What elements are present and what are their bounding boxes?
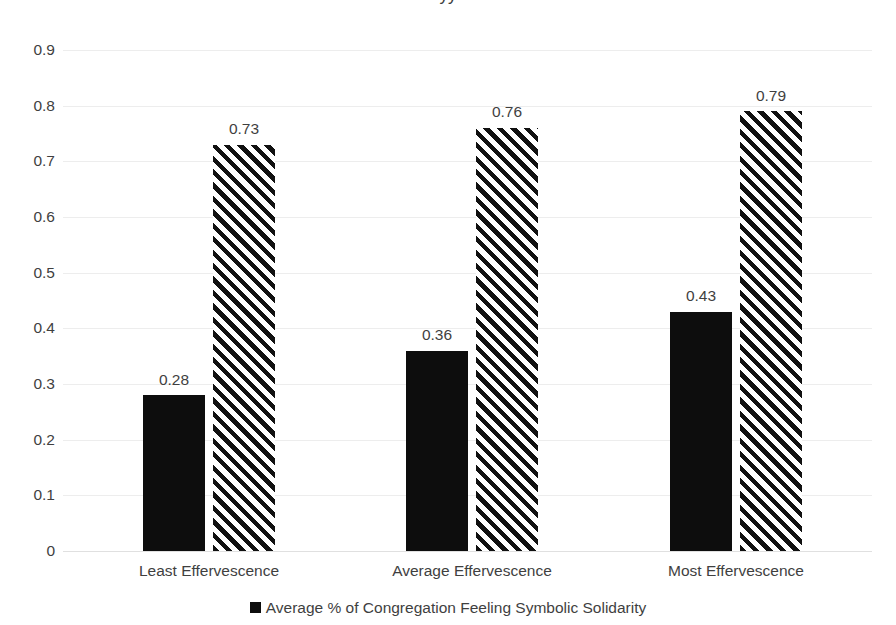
y-axis-tick-label: 0	[9, 543, 55, 559]
y-axis: 0.90.80.70.60.50.40.30.20.10	[0, 50, 55, 551]
bar[interactable]	[213, 145, 275, 551]
bar-value-label: 0.36	[392, 327, 482, 343]
bar-value-label: 0.73	[199, 121, 289, 137]
y-axis-tick-label: 0.1	[9, 488, 55, 504]
bar-value-label: 0.79	[726, 88, 816, 104]
chart-title-cutoff: yy	[0, 0, 896, 5]
bar[interactable]	[406, 351, 468, 551]
legend-item-label: Average % of Congregation Feeling Symbol…	[266, 599, 647, 617]
y-axis-tick-label: 0.7	[9, 154, 55, 170]
bar-group: 0.360.76	[406, 50, 538, 551]
bar-chart: yy 0.90.80.70.60.50.40.30.20.10 0.280.73…	[0, 0, 896, 625]
bar[interactable]	[476, 128, 538, 551]
bar[interactable]	[143, 395, 205, 551]
y-axis-tick-label: 0.9	[9, 42, 55, 58]
bar-group: 0.280.73	[143, 50, 275, 551]
bar-group: 0.430.79	[670, 50, 802, 551]
y-axis-tick-label: 0.2	[9, 432, 55, 448]
legend-item[interactable]: Average % of Congregation Feeling Symbol…	[250, 599, 647, 617]
y-axis-tick-label: 0.8	[9, 98, 55, 114]
bar[interactable]	[740, 111, 802, 551]
gridline	[63, 551, 872, 552]
y-axis-tick-label: 0.3	[9, 376, 55, 392]
plot-area: 0.280.730.360.760.430.79	[63, 50, 872, 551]
y-axis-tick-label: 0.5	[9, 265, 55, 281]
legend-square-icon	[250, 602, 261, 613]
chart-title-text: yy	[440, 0, 457, 5]
x-axis-category-label: Least Effervescence	[99, 562, 319, 580]
chart-legend: Average % of Congregation Feeling Symbol…	[0, 598, 896, 617]
x-axis-category-label: Most Effervescence	[626, 562, 846, 580]
bar-value-label: 0.43	[656, 288, 746, 304]
bar-value-label: 0.76	[462, 104, 552, 120]
bar[interactable]	[670, 312, 732, 551]
x-axis-category-label: Average Effervescence	[362, 562, 582, 580]
y-axis-tick-label: 0.6	[9, 209, 55, 225]
y-axis-tick-label: 0.4	[9, 321, 55, 337]
bar-value-label: 0.28	[129, 372, 219, 388]
